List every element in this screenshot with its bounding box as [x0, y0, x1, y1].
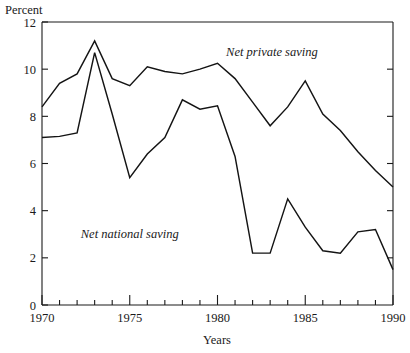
- x-axis-title: Years: [203, 333, 231, 347]
- x-tick-label-1990: 1990: [381, 311, 406, 325]
- x-tick-label-1980: 1980: [205, 311, 230, 325]
- series-annotation-1: Net national saving: [80, 227, 179, 241]
- series-annotation-0: Net private saving: [225, 45, 318, 59]
- y-tick-label-4: 4: [30, 204, 37, 218]
- y-tick-label-2: 2: [30, 251, 36, 265]
- x-tick-label-1985: 1985: [293, 311, 318, 325]
- y-tick-label-10: 10: [24, 63, 37, 77]
- x-tick-label-1975: 1975: [117, 311, 142, 325]
- y-tick-label-6: 6: [30, 157, 36, 171]
- chart-figure: Percent 024681012 19701975198019851990 N…: [0, 0, 410, 353]
- x-tick-label-1970: 1970: [30, 311, 55, 325]
- y-tick-label-12: 12: [24, 16, 37, 30]
- line-chart-svg: Percent 024681012 19701975198019851990 N…: [0, 0, 410, 353]
- series-line-net-private-saving: [42, 41, 393, 187]
- x-tick-group: 19701975198019851990: [30, 295, 406, 325]
- y-tick-group: 024681012: [24, 16, 394, 313]
- series-annotation-group: Net private savingNet national saving: [80, 45, 318, 241]
- y-tick-label-8: 8: [30, 110, 36, 124]
